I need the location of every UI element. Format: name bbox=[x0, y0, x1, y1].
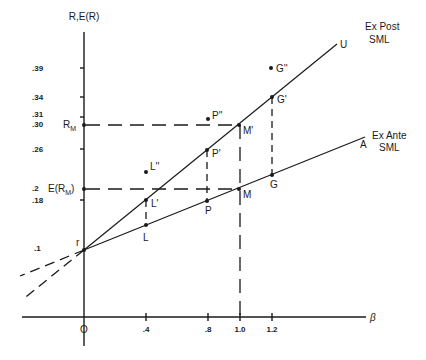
label-L: L bbox=[143, 232, 149, 243]
rm-label: RM bbox=[63, 119, 76, 132]
label-G2: G'' bbox=[276, 63, 288, 74]
ex-post-title-1: Ex Post bbox=[365, 21, 400, 32]
y-tick-label: .34 bbox=[32, 93, 44, 102]
y-tick-label: .30 bbox=[32, 120, 44, 129]
label-r: r bbox=[76, 237, 80, 248]
point-r bbox=[82, 248, 86, 252]
point-P2 bbox=[206, 117, 210, 121]
point-L1 bbox=[144, 198, 148, 202]
label-G: G bbox=[270, 179, 278, 190]
sml-diagram: R,E(R) β O .39 .34 .31 .30 .26 .2 .18 .1… bbox=[0, 0, 426, 360]
x-tick-label: .8 bbox=[205, 325, 212, 334]
label-P2: P'' bbox=[212, 110, 223, 121]
point-rm bbox=[82, 123, 86, 127]
label-A: A bbox=[360, 139, 367, 150]
y-tick-label: .18 bbox=[32, 196, 44, 205]
point-erm bbox=[82, 187, 86, 191]
point-L2 bbox=[144, 170, 148, 174]
point-G bbox=[270, 173, 274, 177]
label-M: M bbox=[243, 189, 251, 200]
erm-label: E(RM) bbox=[48, 183, 74, 196]
x-tick-label: 1.0 bbox=[234, 325, 246, 334]
point-G2 bbox=[269, 66, 273, 70]
point-G1 bbox=[270, 95, 274, 99]
label-U: U bbox=[340, 39, 347, 50]
point-L bbox=[144, 223, 148, 227]
label-P1: P' bbox=[212, 148, 221, 159]
y-tick-label: .2 bbox=[32, 184, 39, 193]
origin-label: O bbox=[80, 324, 88, 335]
point-M1 bbox=[237, 123, 241, 127]
ex-ante-sml-line bbox=[84, 137, 365, 250]
label-P: P bbox=[205, 205, 212, 216]
point-P1 bbox=[205, 148, 209, 152]
x-axis-label: β bbox=[369, 312, 376, 323]
label-L2: L'' bbox=[150, 161, 159, 172]
ex-post-sml-line bbox=[84, 44, 337, 250]
y-tick-label: .1 bbox=[34, 244, 41, 253]
ex-ante-title-2: SML bbox=[379, 142, 400, 153]
y-tick-label: .39 bbox=[32, 64, 44, 73]
ex-ante-title-1: Ex Ante bbox=[372, 130, 407, 141]
label-G1: G' bbox=[277, 94, 287, 105]
ex-post-extension bbox=[22, 250, 84, 300]
x-tick-label: 1.2 bbox=[266, 325, 278, 334]
point-P bbox=[205, 199, 209, 203]
y-axis-label: R,E(R) bbox=[69, 11, 100, 22]
label-M1: M' bbox=[243, 125, 253, 136]
x-tick-label: .4 bbox=[143, 325, 150, 334]
y-tick-label: .26 bbox=[32, 145, 44, 154]
y-tick-label: .31 bbox=[32, 110, 44, 119]
ex-post-title-2: SML bbox=[369, 34, 390, 45]
ex-ante-extension bbox=[20, 250, 84, 276]
label-L1: L' bbox=[151, 198, 159, 209]
point-M bbox=[237, 187, 241, 191]
